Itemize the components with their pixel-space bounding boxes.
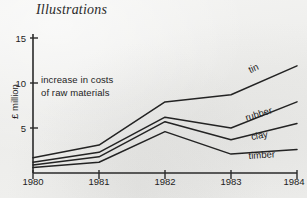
y-tick-label-5: 5 [8,123,26,134]
x-tick-label-1984: 1984 [277,176,307,187]
y-tick-label-15: 15 [8,33,26,44]
x-tick-label-1981: 1981 [82,176,116,187]
annotation-line-2: of raw materials [41,87,110,98]
x-tick-label-1983: 1983 [214,176,248,187]
chart-page: Illustrations £ million 15 10 5 1980 198… [0,0,307,198]
x-tick-label-1982: 1982 [148,176,182,187]
series-label-timber: timber [248,148,275,161]
line-chart-plot [0,0,307,198]
x-tick-label-1980: 1980 [16,176,50,187]
y-tick-label-10: 10 [8,78,26,89]
annotation-line-1: increase in costs [41,74,113,85]
